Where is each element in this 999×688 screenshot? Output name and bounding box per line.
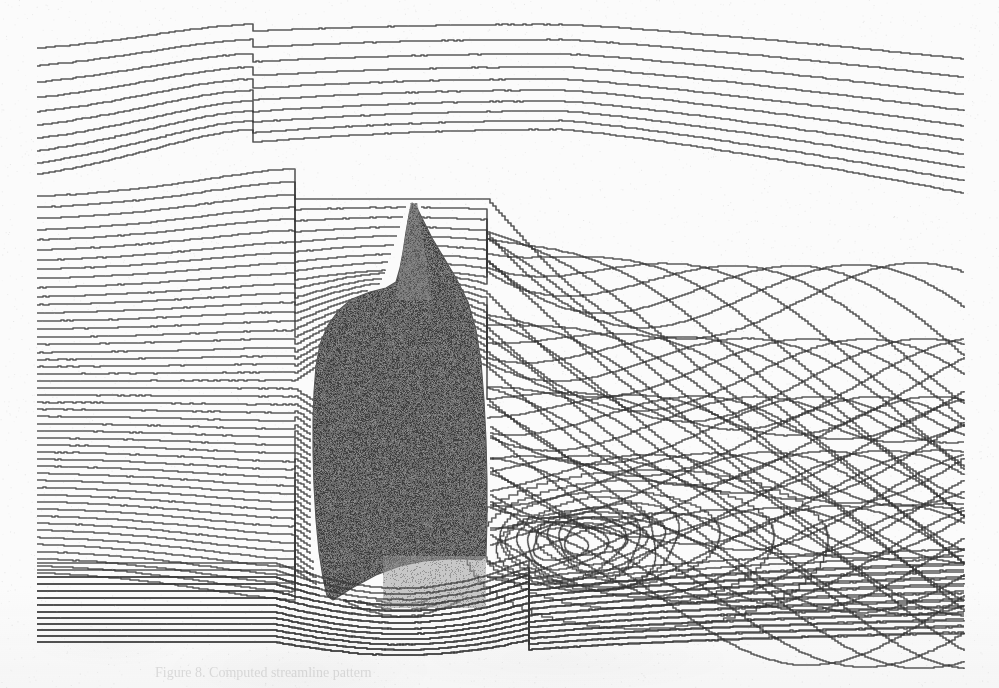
- figure-streamline-plot: Figure 8. Computed streamline pattern: [0, 0, 999, 688]
- streamline-flow-canvas: [0, 0, 999, 688]
